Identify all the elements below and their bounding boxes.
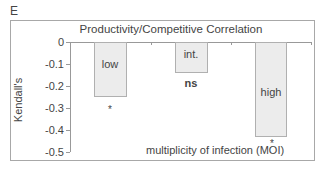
x-tick (231, 42, 232, 45)
chart-title: Productivity/Competitive Correlation (0, 23, 322, 35)
x-axis-label: multiplicity of infection (MOI) (146, 144, 284, 156)
panel-label: E (10, 4, 18, 18)
significance-int: ns (185, 77, 198, 89)
y-tick-label: -0.1 (45, 58, 64, 70)
y-axis-label: Kendall's (12, 78, 24, 122)
y-tick (66, 64, 70, 65)
significance-low: * (108, 104, 112, 115)
y-tick (66, 42, 70, 43)
y-tick (66, 152, 70, 153)
y-tick-label: 0 (58, 36, 64, 48)
y-tick (66, 108, 70, 109)
y-axis (70, 42, 71, 152)
y-tick-label: -0.2 (45, 80, 64, 92)
y-tick-label: -0.5 (45, 146, 64, 158)
bar-label-low: low (102, 58, 119, 70)
y-tick-label: -0.3 (45, 102, 64, 114)
x-tick (311, 42, 312, 45)
y-tick (66, 86, 70, 87)
x-tick (151, 42, 152, 45)
y-tick-label: -0.4 (45, 124, 64, 136)
y-tick (66, 130, 70, 131)
bar-label-int: int. (184, 48, 199, 60)
bar-label-high: high (261, 86, 282, 98)
